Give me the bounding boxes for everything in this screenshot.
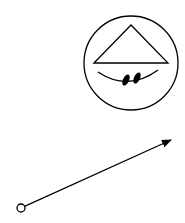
start-circle-icon — [17, 204, 25, 212]
triangle-shape — [94, 25, 168, 63]
hash-mark — [121, 73, 132, 86]
symbol-icon — [84, 16, 178, 110]
hash-mark — [132, 71, 143, 84]
diagram-canvas — [0, 0, 185, 223]
arrow-connector — [17, 140, 171, 212]
arrow-line — [25, 140, 172, 206]
